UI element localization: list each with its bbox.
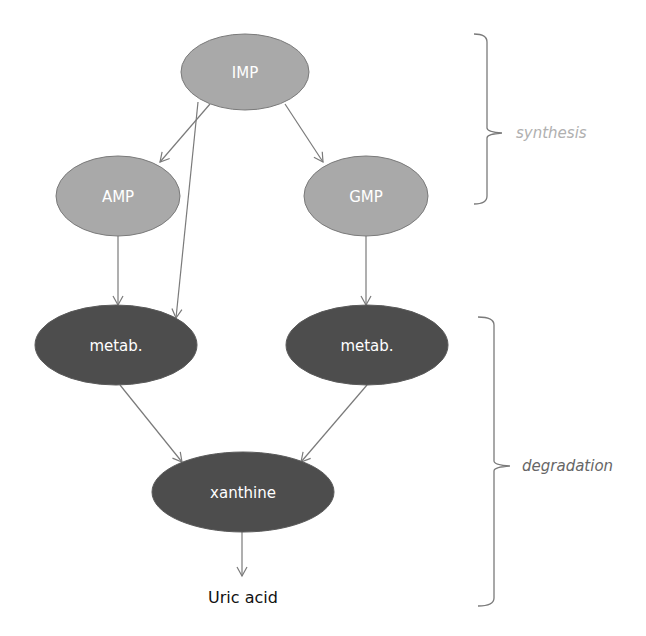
node-metab-right-label: metab.: [340, 337, 393, 355]
node-imp-label: IMP: [232, 64, 258, 82]
node-gmp-label: GMP: [349, 188, 383, 206]
purine-pathway-diagram: IMP AMP GMP metab. metab. xanthine Uric …: [0, 0, 646, 636]
degradation-brace-icon: [478, 317, 510, 606]
node-uric-acid-label: Uric acid: [208, 588, 278, 607]
edge-imp-amp: [160, 104, 210, 162]
node-xanthine: xanthine: [152, 452, 334, 532]
node-imp: IMP: [181, 34, 309, 110]
node-gmp: GMP: [304, 156, 428, 236]
edge-imp-gmp: [285, 104, 323, 162]
synthesis-brace-icon: [474, 34, 502, 204]
degradation-bracket: degradation: [478, 317, 613, 606]
synthesis-label: synthesis: [516, 124, 587, 142]
node-metab-left-label: metab.: [89, 337, 142, 355]
edge-metab-right-xanthine: [301, 385, 367, 462]
node-xanthine-label: xanthine: [210, 484, 276, 502]
edge-metab-left-xanthine: [120, 385, 182, 462]
degradation-label: degradation: [522, 457, 613, 475]
node-amp: AMP: [56, 156, 180, 236]
synthesis-bracket: synthesis: [474, 34, 587, 204]
node-metab-left: metab.: [35, 305, 197, 385]
edge-imp-metab-left: [176, 102, 198, 318]
node-metab-right: metab.: [286, 305, 448, 385]
node-amp-label: AMP: [102, 188, 134, 206]
